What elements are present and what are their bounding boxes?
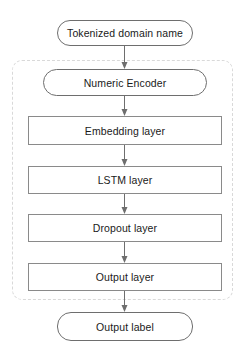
node-label: Output label <box>96 321 154 333</box>
flowchart-canvas: Tokenized domain name Numeric Encoder Em… <box>0 0 245 358</box>
node-label: Numeric Encoder <box>84 77 167 89</box>
node-label: Output layer <box>96 271 154 283</box>
node-dropout-layer: Dropout layer <box>28 214 222 242</box>
node-label: Tokenized domain name <box>67 27 183 39</box>
node-embedding-layer: Embedding layer <box>28 116 222 145</box>
node-label: Dropout layer <box>93 222 157 234</box>
node-tokenized-domain-name: Tokenized domain name <box>57 20 193 46</box>
node-label: Embedding layer <box>85 125 165 137</box>
node-label: LSTM layer <box>98 174 153 186</box>
node-numeric-encoder: Numeric Encoder <box>43 69 207 96</box>
node-output-label: Output label <box>57 312 193 341</box>
node-output-layer: Output layer <box>28 263 222 291</box>
node-lstm-layer: LSTM layer <box>28 166 222 194</box>
